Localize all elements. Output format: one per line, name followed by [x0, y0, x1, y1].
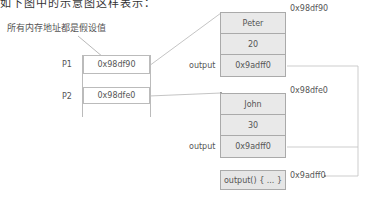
p1-cell: 0x98df90: [83, 55, 150, 74]
stack-memory: 0x98df90 0x98dfe0: [82, 55, 151, 117]
p1-reference-arrow: [149, 13, 221, 66]
annotation-pointer: [78, 36, 103, 57]
p1-value: 0x98df90: [97, 60, 135, 69]
function-address: 0x9adff0: [290, 171, 326, 180]
john-object: John 30 0x9adff0: [220, 93, 286, 158]
peter-output-pointer: [287, 66, 358, 176]
p2-reference-arrow: [149, 93, 221, 96]
peter-object: Peter 20 0x9adff0: [220, 12, 286, 77]
john-output-field: 0x9adff0: [221, 136, 285, 157]
peter-age-field: 20: [221, 34, 285, 55]
annotation-note: 所有内存地址都是假设值: [7, 21, 106, 34]
john-age-field: 30: [221, 115, 285, 136]
john-address: 0x98dfe0: [290, 86, 328, 95]
john-name-field: John: [221, 94, 285, 115]
p2-cell: 0x98dfe0: [83, 87, 150, 104]
peter-output-field: 0x9adff0: [221, 55, 285, 76]
p1-label: P1: [62, 60, 72, 69]
p2-value: 0x98dfe0: [98, 91, 136, 100]
header-partial-text: 如下图中的示意图这样表示：: [0, 0, 156, 10]
peter-output-label: output: [189, 61, 215, 70]
john-output-label: output: [189, 142, 215, 151]
output-function-box: output() { ... }: [220, 170, 286, 190]
peter-address: 0x98df90: [290, 4, 328, 13]
p2-label: P2: [62, 92, 72, 101]
peter-name-field: Peter: [221, 13, 285, 34]
